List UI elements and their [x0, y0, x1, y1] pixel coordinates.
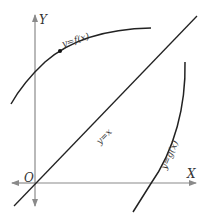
origin-label: O — [24, 171, 34, 185]
g-curve-label: y=g(x) — [158, 138, 180, 171]
x-axis-label: X — [186, 167, 196, 181]
point-on-f — [58, 49, 62, 53]
y-axis-label: Y — [39, 13, 48, 27]
identity-line-label: y=x — [94, 127, 114, 147]
identity-line — [14, 16, 197, 206]
g-curve — [133, 62, 185, 212]
function-graph: Y X O y=x y=f(x) y=g(x) — [0, 0, 209, 218]
f-curve-label: y=f(x) — [60, 31, 91, 49]
